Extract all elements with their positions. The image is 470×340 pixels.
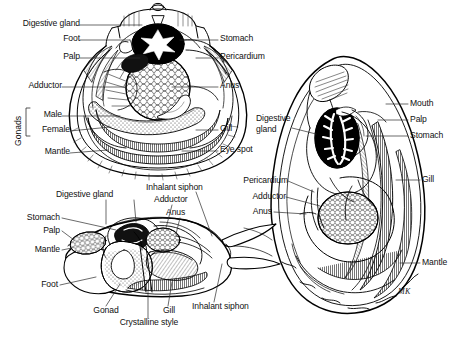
label-scallop-foot: Foot xyxy=(0,34,80,44)
artist-signature: MK xyxy=(398,287,411,296)
label-scallop-mantle: Mantle xyxy=(0,147,70,157)
label-oyster-gill: Gill xyxy=(422,175,434,185)
label-oyster-stomach: Stomach xyxy=(410,131,443,141)
label-oyster-adductor: Adductor xyxy=(222,192,286,202)
clam-drawing xyxy=(64,217,280,297)
label-oyster-pericardium: Pericardium xyxy=(222,176,288,186)
label-oyster-palp: Palp xyxy=(410,115,427,125)
label-clam-gonad: Gonad xyxy=(84,306,128,316)
label-scallop-digestive-gland: Digestive gland xyxy=(0,19,80,29)
label-oyster-digestive-line2: gland xyxy=(256,125,277,135)
label-clam-stomach: Stomach xyxy=(0,213,60,223)
label-scallop-gill: Gill xyxy=(220,124,232,134)
label-scallop-pericardium: Pericardium xyxy=(220,52,265,62)
label-oyster-mantle: Mantle xyxy=(422,258,447,268)
label-clam-gill: Gill xyxy=(154,306,184,316)
label-scallop-eye-spot: Eye spot xyxy=(220,145,253,155)
label-clam-anus: Anus xyxy=(166,208,185,218)
label-clam-digestive-gland: Digestive gland xyxy=(56,190,113,200)
label-scallop-palp: Palp xyxy=(0,52,80,62)
label-clam-adductor: Adductor xyxy=(154,195,188,205)
oyster-drawing xyxy=(271,56,425,313)
label-clam-foot: Foot xyxy=(0,280,58,290)
label-clam-palp: Palp xyxy=(0,226,60,236)
label-scallop-anus: Anus xyxy=(220,81,239,91)
label-scallop-stomach: Stomach xyxy=(220,34,253,44)
label-clam-crystalline-style: Crystalline style xyxy=(106,318,192,328)
label-clam-inhalant-siphon-top: Inhalant siphon xyxy=(146,183,203,193)
label-oyster-digestive-line1: Digestive xyxy=(256,114,290,124)
bivalve-anatomy-figure: Digestive gland Foot Palp Adductor Male … xyxy=(0,0,470,340)
label-scallop-male: Male xyxy=(0,110,62,120)
label-oyster-mouth: Mouth xyxy=(410,99,433,109)
label-clam-mantle: Mantle xyxy=(0,245,60,255)
label-oyster-anus: Anus xyxy=(222,207,272,217)
label-scallop-adductor: Adductor xyxy=(0,81,62,91)
label-scallop-gonads-bracket: Gonads xyxy=(13,116,23,146)
label-scallop-female: Female xyxy=(0,125,70,135)
label-clam-inhalant-siphon-bottom: Inhalant siphon xyxy=(192,302,249,312)
